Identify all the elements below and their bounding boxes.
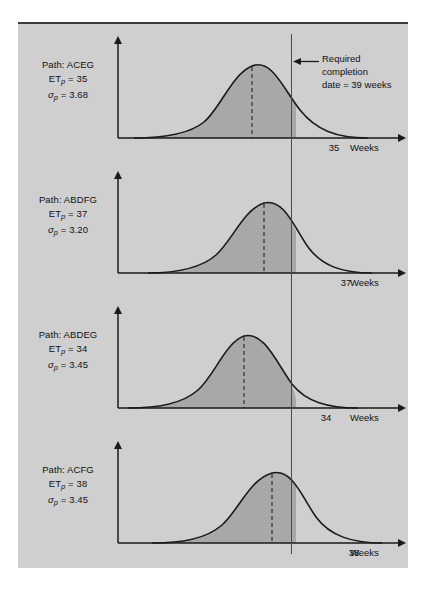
mean-tick-label: 35 [314,142,354,153]
annotation-line-1: Required [322,52,391,65]
sigma-subscript: p [54,363,58,372]
annotation-arrow-icon [293,57,319,66]
normal-curve-svg [100,304,406,424]
y-axis-arrowhead [114,171,122,179]
normal-curve-svg [100,169,406,289]
y-axis-arrowhead [114,441,122,449]
curve-fill-area [144,335,296,408]
et-value: = 38 [68,478,87,489]
curve-plot-acfg: 38 Weeks [100,439,406,559]
x-axis-arrowhead [398,404,406,412]
et-value: = 34 [68,343,87,354]
x-axis-arrowhead [398,134,406,142]
required-completion-vertical-line [291,34,292,554]
et-prefix: ET [49,478,61,489]
sigma-value: = 3.20 [61,224,88,235]
distribution-panel-acfg: Path: ACFG ETp = 38 σp = 3.45 38 Weeks [18,433,408,568]
distribution-panel-abdeg: Path: ABDEG ETp = 34 σp = 3.45 34 Weeks [18,298,408,433]
et-subscript: p [61,347,65,356]
x-axis-arrowhead [398,269,406,277]
sigma-value: = 3.68 [61,89,88,100]
curve-fill-area [168,472,296,543]
y-axis-arrowhead [114,36,122,44]
et-subscript: p [61,482,65,491]
x-axis-arrowhead [398,539,406,547]
distribution-panel-abdfg: Path: ABDFG ETp = 37 σp = 3.20 37 Weeks [18,163,408,298]
et-value: = 37 [68,208,87,219]
x-axis-label: Weeks [350,277,379,288]
normal-curve-svg [100,439,406,559]
sigma-subscript: p [54,498,58,507]
sigma-value: = 3.45 [61,494,88,505]
et-prefix: ET [49,343,61,354]
et-prefix: ET [49,208,61,219]
sigma-value: = 3.45 [61,359,88,370]
et-value: = 35 [68,73,87,84]
x-axis-label: Weeks [350,142,379,153]
et-prefix: ET [49,73,61,84]
required-completion-annotation: Required completion date = 39 weeks [322,52,391,91]
x-axis-label: Weeks [350,547,379,558]
curve-plot-abdeg: 34 Weeks [100,304,406,424]
et-subscript: p [61,212,65,221]
curve-plot-abdfg: 37 Weeks [100,169,406,289]
et-subscript: p [61,77,65,86]
figure-panel: Path: ACEG ETp = 35 σp = 3.68 35 Weeks P… [18,22,408,568]
curve-fill-area [152,65,296,138]
distribution-panel-aceg: Path: ACEG ETp = 35 σp = 3.68 35 Weeks [18,28,408,163]
sigma-subscript: p [54,228,58,237]
mean-tick-label: 34 [306,412,346,423]
y-axis-arrowhead [114,306,122,314]
x-axis-label: Weeks [350,412,379,423]
sigma-subscript: p [54,93,58,102]
annotation-line-2: completion [322,65,391,78]
annotation-line-3: date = 39 weeks [322,78,391,91]
